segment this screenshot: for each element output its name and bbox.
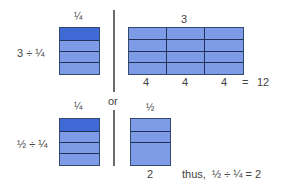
bottom-left-expression: ½ ÷ ¼ [17, 138, 48, 150]
top-three-wholes-grid [128, 27, 244, 75]
grid-line [60, 153, 99, 154]
column-count-1: 4 [143, 76, 149, 88]
grid-line [204, 28, 205, 74]
column-count-2: 4 [182, 76, 188, 88]
bottom-count-two: 2 [147, 168, 153, 180]
equals-sign: = [242, 76, 248, 88]
shaded-quarter [60, 119, 99, 131]
result-twelve: 12 [257, 76, 269, 88]
grid-line [131, 131, 170, 132]
bottom-half-block [130, 118, 171, 166]
top-right-label-three: 3 [181, 13, 187, 25]
column-count-3: 4 [221, 76, 227, 88]
grid-line [129, 51, 243, 52]
shaded-quarter [60, 28, 99, 40]
bottom-quarter-block [59, 118, 100, 166]
top-left-expression: 3 ÷ ¼ [17, 47, 44, 59]
grid-line [131, 142, 170, 143]
vertical-divider-top [113, 10, 115, 92]
grid-line [60, 142, 99, 143]
grid-line [60, 131, 99, 132]
grid-line [166, 28, 167, 74]
bottom-right-label-half: ½ [146, 102, 154, 114]
grid-line [60, 40, 99, 41]
grid-line [129, 39, 243, 40]
grid-line [129, 62, 243, 63]
conclusion-text: thus, ½ ÷ ¼ = 2 [182, 168, 261, 180]
top-left-label-quarter: ¼ [74, 11, 82, 23]
grid-line [60, 51, 99, 52]
or-label: or [108, 95, 118, 107]
bottom-left-label-quarter: ¼ [74, 101, 82, 113]
grid-line [60, 62, 99, 63]
vertical-divider-bottom [113, 110, 115, 166]
top-quarter-block [59, 27, 100, 75]
